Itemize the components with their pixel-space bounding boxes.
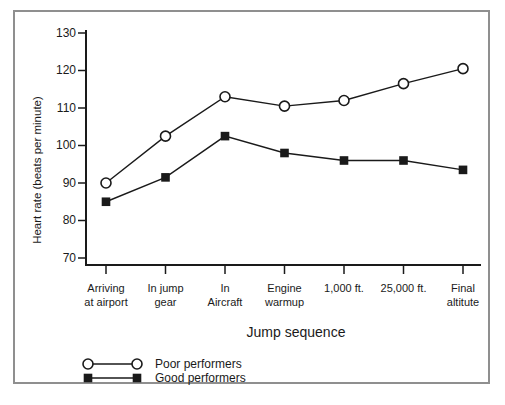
x-axis-title: Jump sequence: [247, 324, 346, 340]
open-circle-marker: [220, 92, 230, 102]
x-category-label: 1,000 ft.: [324, 281, 364, 295]
legend-label: Good performers: [155, 371, 246, 385]
x-category-label-line: Engine: [265, 281, 304, 295]
filled-square-marker: [84, 374, 93, 383]
filled-square-marker: [102, 197, 111, 206]
open-circle-marker: [161, 131, 171, 141]
x-category-label-line: 25,000 ft.: [381, 281, 427, 295]
x-category-label-line: In: [208, 281, 243, 295]
y-tick-label: 90: [42, 177, 76, 190]
x-category-label: Enginewarmup: [265, 281, 304, 309]
filled-square-marker: [161, 173, 170, 182]
x-category-label: Arrivingat airport: [84, 281, 127, 309]
series-line-poor-performers: [106, 69, 463, 183]
legend-label: Poor performers: [155, 357, 242, 371]
x-category-label-line: 1,000 ft.: [324, 281, 364, 295]
open-circle-marker: [132, 359, 142, 369]
filled-square-marker: [221, 132, 230, 141]
x-category-label: Finalaltitute: [447, 281, 479, 309]
open-circle-marker: [280, 101, 290, 111]
x-category-label-line: Final: [447, 281, 479, 295]
open-circle-marker: [339, 96, 349, 106]
x-category-label-line: gear: [147, 295, 183, 309]
legend-marker: [82, 371, 144, 385]
y-tick-label: 130: [42, 27, 76, 40]
filled-square-marker: [133, 374, 142, 383]
y-tick-label: 110: [42, 102, 76, 115]
y-tick-label: 80: [42, 214, 76, 227]
y-tick-label: 100: [42, 139, 76, 152]
x-category-label-line: altitute: [447, 295, 479, 309]
x-category-label-line: Arriving: [84, 281, 127, 295]
x-category-label: 25,000 ft.: [381, 281, 427, 295]
x-category-label: In jumpgear: [147, 281, 183, 309]
x-category-label-line: warmup: [265, 295, 304, 309]
legend-item-poor-performers: Poor performers: [82, 357, 246, 371]
legend-marker: [82, 357, 144, 371]
chart-figure: Heart rate (beats per minute) Jump seque…: [0, 0, 505, 405]
x-category-label-line: Aircraft: [208, 295, 243, 309]
y-tick-label: 70: [42, 252, 76, 265]
filled-square-marker: [280, 149, 289, 158]
x-category-label-line: at airport: [84, 295, 127, 309]
filled-square-marker: [399, 156, 408, 165]
open-circle-marker: [458, 64, 468, 74]
open-circle-marker: [399, 79, 409, 89]
legend-item-good-performers: Good performers: [82, 371, 246, 385]
chart-canvas: [0, 0, 505, 405]
legend: Poor performersGood performers: [82, 357, 246, 385]
series-line-good-performers: [106, 136, 463, 202]
x-category-label: InAircraft: [208, 281, 243, 309]
y-tick-label: 120: [42, 64, 76, 77]
open-circle-marker: [83, 359, 93, 369]
filled-square-marker: [340, 156, 349, 165]
filled-square-marker: [459, 166, 468, 175]
x-category-label-line: In jump: [147, 281, 183, 295]
open-circle-marker: [101, 178, 111, 188]
